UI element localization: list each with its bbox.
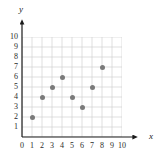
scatter-plot-figure: 012345678910 12345678910 y x: [0, 0, 155, 159]
data-point: [50, 85, 55, 90]
y-axis-label: y: [19, 5, 23, 14]
x-axis-tick-label: 6: [80, 142, 84, 150]
y-axis-tick-label: 3: [14, 103, 18, 111]
data-point: [40, 95, 45, 100]
x-axis-tick-label: 7: [90, 142, 94, 150]
x-axis-tick-label: 9: [110, 142, 114, 150]
data-point: [30, 115, 35, 120]
x-axis-tick-label: 2: [40, 142, 44, 150]
y-axis-tick-label: 6: [14, 73, 18, 81]
y-axis-tick-label: 5: [14, 83, 18, 91]
y-axis-tick-label: 1: [14, 123, 18, 131]
y-axis-tick-label: 10: [10, 33, 18, 41]
y-axis-tick-label: 8: [14, 53, 18, 61]
plot-area: [22, 37, 122, 137]
data-point: [90, 85, 95, 90]
y-axis-tick-label: 2: [14, 113, 18, 121]
data-point: [80, 105, 85, 110]
y-axis-tick-label: 7: [14, 63, 18, 71]
x-axis-tick-label: 0: [20, 142, 24, 150]
x-axis-tick-label: 8: [100, 142, 104, 150]
data-point: [100, 65, 105, 70]
x-axis-tick-label: 5: [70, 142, 74, 150]
x-axis-tick-label: 3: [50, 142, 54, 150]
x-axis-tick-label: 10: [118, 142, 126, 150]
data-point: [70, 95, 75, 100]
x-axis-label: x: [149, 132, 153, 141]
x-axis-tick-label: 4: [60, 142, 64, 150]
y-axis-tick-label: 4: [14, 93, 18, 101]
y-axis-tick-label: 9: [14, 43, 18, 51]
x-axis-tick-label: 1: [30, 142, 34, 150]
data-point: [60, 75, 65, 80]
grid-lines: [22, 37, 122, 137]
